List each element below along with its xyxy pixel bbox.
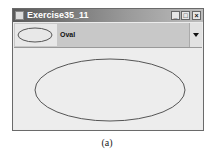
oval-shape [14,48,202,130]
maximize-button[interactable]: □ [181,11,190,20]
java-app-icon [15,11,24,20]
oval-icon [15,24,57,46]
close-button[interactable]: × [192,11,201,20]
drawing-panel [14,48,202,129]
window-title: Exercise35_11 [27,9,89,22]
shape-combobox[interactable]: Oval [14,23,202,48]
chevron-down-icon [193,33,199,37]
title-bar[interactable]: Exercise35_11 _ □ × [13,9,203,22]
figure-caption: (a) [0,137,214,148]
app-window: Exercise35_11 _ □ × Oval [12,8,204,131]
minimize-button[interactable]: _ [171,11,180,20]
combo-selected-label: Oval [60,23,75,47]
dropdown-button[interactable] [189,23,202,47]
